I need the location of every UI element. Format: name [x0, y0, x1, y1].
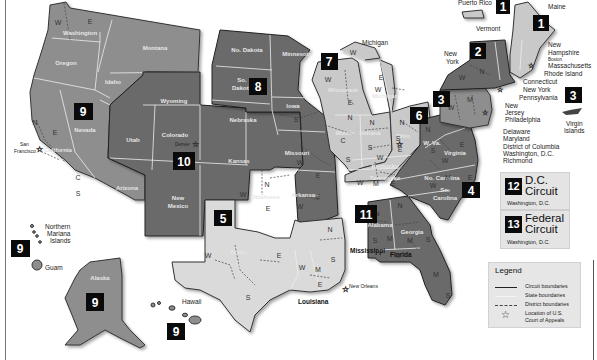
svg-text:E: E — [316, 172, 321, 179]
svg-text:E: E — [318, 281, 323, 288]
svg-text:New: New — [505, 102, 518, 109]
svg-text:S: S — [373, 237, 378, 244]
svg-text:New: New — [548, 41, 561, 48]
svg-text:S: S — [431, 147, 436, 154]
svg-text:Pennsylvania: Pennsylvania — [519, 94, 558, 102]
svg-text:Kentucky: Kentucky — [371, 163, 399, 169]
badge-circuit-9-hi: 9 — [167, 323, 185, 340]
svg-text:So.: So. — [237, 77, 247, 83]
svg-text:Maine: Maine — [548, 3, 566, 10]
svg-text:W. Va.: W. Va. — [423, 140, 441, 146]
svg-text:E: E — [348, 99, 353, 106]
svg-text:N: N — [479, 68, 484, 75]
star-icon: ☆ — [528, 62, 534, 69]
badge-circuit-1-pr: 1 — [496, 0, 510, 14]
svg-text:N: N — [327, 226, 332, 233]
svg-text:Louisiana: Louisiana — [298, 298, 329, 305]
badge-circuit-5: 5 — [214, 210, 232, 226]
svg-text:San: San — [20, 141, 29, 147]
svg-text:M: M — [407, 237, 413, 244]
svg-text:Massachusetts: Massachusetts — [548, 62, 592, 69]
svg-text:W: W — [325, 76, 332, 83]
svg-text:Rhode Island: Rhode Island — [544, 70, 583, 77]
svg-text:No. Carolina: No. Carolina — [424, 175, 460, 181]
badge-circuit-9-ak: 9 — [86, 293, 104, 311]
svg-text:W: W — [55, 19, 62, 26]
svg-text:Mississippi: Mississippi — [350, 247, 385, 255]
svg-text:W: W — [459, 74, 466, 81]
svg-text:Denver: Denver — [175, 142, 190, 147]
badge-circuit-8: 8 — [249, 78, 267, 95]
guam-nmi-region — [31, 225, 43, 271]
svg-text:W: W — [205, 252, 212, 259]
solid-line-icon — [495, 287, 517, 288]
svg-text:Utah: Utah — [126, 137, 140, 143]
svg-text:3: 3 — [570, 89, 577, 103]
svg-text:W: W — [375, 86, 382, 93]
badge-circuit-2: 2 — [470, 43, 486, 59]
svg-text:2: 2 — [475, 45, 482, 59]
svg-text:Texas: Texas — [230, 249, 247, 255]
svg-text:N: N — [425, 126, 430, 133]
dc-circuit-title: D.C. Circuit — [525, 175, 558, 197]
badge-circuit-1: 1 — [533, 15, 549, 31]
svg-text:N: N — [395, 252, 400, 259]
svg-text:Francisco: Francisco — [14, 148, 36, 154]
svg-text:N: N — [264, 181, 269, 188]
svg-text:Georgia: Georgia — [401, 229, 424, 235]
legend-item-state: State boundaries — [489, 292, 580, 301]
svg-text:Montana: Montana — [143, 45, 168, 51]
svg-text:New: New — [172, 195, 185, 201]
svg-text:S: S — [294, 116, 299, 123]
svg-text:7: 7 — [326, 55, 333, 69]
circuit-map: Washington Oregon Idaho Montana Nevada C… — [0, 0, 597, 360]
svg-text:Colorado: Colorado — [162, 132, 189, 138]
svg-text:Michigan: Michigan — [372, 93, 398, 99]
svg-text:Maryland: Maryland — [503, 135, 530, 143]
svg-text:District of Columbia: District of Columbia — [503, 143, 560, 150]
svg-text:M: M — [433, 271, 439, 278]
svg-text:Wyoming: Wyoming — [161, 98, 188, 104]
svg-text:M: M — [373, 180, 379, 187]
svg-text:Guam: Guam — [45, 264, 63, 271]
svg-text:W: W — [357, 179, 364, 186]
legend-title: Legend — [495, 266, 522, 275]
svg-text:So.: So. — [440, 187, 450, 193]
svg-text:Michigan: Michigan — [362, 39, 388, 47]
svg-text:Alaska: Alaska — [90, 275, 110, 281]
dashed-line-icon — [495, 305, 517, 306]
svg-text:S: S — [331, 256, 336, 263]
svg-text:S: S — [246, 294, 251, 301]
star-icon: ☆ — [36, 145, 43, 154]
svg-text:Oregon: Oregon — [55, 60, 77, 66]
svg-text:Mexico: Mexico — [168, 203, 189, 209]
svg-text:California: California — [44, 147, 72, 153]
svg-text:N: N — [399, 119, 404, 126]
svg-text:Missouri: Missouri — [285, 150, 310, 156]
svg-text:Nebraska: Nebraska — [229, 117, 257, 123]
svg-text:1: 1 — [538, 17, 545, 31]
svg-text:Oklahoma: Oklahoma — [250, 194, 280, 200]
svg-text:E: E — [266, 205, 271, 212]
svg-text:Idaho: Idaho — [105, 79, 121, 85]
svg-text:W: W — [240, 191, 247, 198]
svg-text:9: 9 — [92, 296, 99, 310]
svg-text:9: 9 — [17, 242, 24, 256]
svg-text:New Orleans: New Orleans — [349, 283, 378, 289]
svg-text:8: 8 — [255, 80, 262, 94]
svg-text:11: 11 — [360, 208, 373, 222]
svg-text:Islands: Islands — [564, 127, 585, 134]
badge-circuit-10: 10 — [173, 152, 195, 170]
svg-text:E: E — [391, 180, 396, 187]
svg-text:W: W — [377, 154, 384, 161]
svg-text:Kansas: Kansas — [228, 158, 250, 164]
svg-text:3: 3 — [438, 93, 445, 107]
svg-text:9: 9 — [173, 325, 180, 339]
svg-text:Philadelphia: Philadelphia — [505, 116, 541, 124]
badge-circuit-4: 4 — [462, 182, 480, 198]
svg-text:Puerto Rico: Puerto Rico — [458, 0, 492, 6]
dc-circuit-badge: 12 — [505, 178, 522, 195]
dc-circuit-location: Washington, D.C. — [507, 200, 550, 206]
svg-text:New: New — [444, 50, 457, 57]
svg-text:Illinois: Illinois — [335, 130, 355, 136]
